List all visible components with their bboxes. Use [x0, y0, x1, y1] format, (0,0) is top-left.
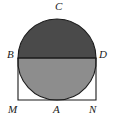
label-C: C — [55, 1, 62, 12]
label-M: M — [8, 104, 17, 115]
label-N: N — [89, 104, 96, 115]
label-B: B — [7, 49, 14, 60]
figure-canvas — [0, 0, 113, 120]
geometry-figure: C B D M A N — [0, 0, 113, 120]
label-D: D — [99, 49, 107, 60]
label-A: A — [53, 104, 60, 115]
